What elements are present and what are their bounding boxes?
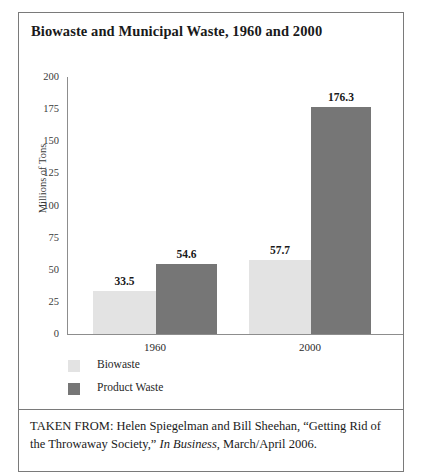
clipped-text-sliver xyxy=(150,0,410,4)
bar-2000-biowaste xyxy=(249,260,311,334)
y-tick-75: 75 xyxy=(29,233,59,244)
y-tick-200: 200 xyxy=(29,72,59,83)
y-axis-line xyxy=(67,77,68,335)
bar-1960-biowaste xyxy=(93,291,156,334)
caption-divider xyxy=(19,409,403,410)
figure-container: Biowaste and Municipal Waste, 1960 and 2… xyxy=(18,12,404,472)
y-tick-0: 0 xyxy=(29,329,59,340)
bar-2000-product-waste xyxy=(311,107,371,334)
y-tick-50: 50 xyxy=(29,265,59,276)
y-tick-150: 150 xyxy=(29,136,59,147)
bar-value-1960-biowaste: 33.5 xyxy=(93,276,156,288)
legend-label-biowaste: Biowaste xyxy=(97,358,140,370)
bar-value-2000-product-waste: 176.3 xyxy=(311,92,371,104)
bar-chart: Millions of Tons 200 175 150 125 100 75 … xyxy=(19,55,403,355)
x-tick-1960: 1960 xyxy=(93,341,217,353)
x-tick-2000: 2000 xyxy=(249,341,371,353)
y-tick-175: 175 xyxy=(29,104,59,115)
legend-label-product-waste: Product Waste xyxy=(97,381,163,393)
caption-source-italic: In Business xyxy=(159,437,216,451)
y-tick-125: 125 xyxy=(29,168,59,179)
legend-swatch-biowaste xyxy=(68,360,80,372)
x-axis-line xyxy=(67,334,403,335)
y-tick-25: 25 xyxy=(29,297,59,308)
bar-value-1960-product-waste: 54.6 xyxy=(156,249,217,261)
legend-swatch-product-waste xyxy=(68,383,80,395)
y-tick-100: 100 xyxy=(29,201,59,212)
caption-suffix: , March/April 2006. xyxy=(217,437,317,451)
figure-title: Biowaste and Municipal Waste, 1960 and 2… xyxy=(31,23,322,40)
bar-1960-product-waste xyxy=(156,264,217,334)
bar-value-2000-biowaste: 57.7 xyxy=(249,245,311,257)
figure-caption: TAKEN FROM: Helen Spiegelman and Bill Sh… xyxy=(30,417,398,453)
